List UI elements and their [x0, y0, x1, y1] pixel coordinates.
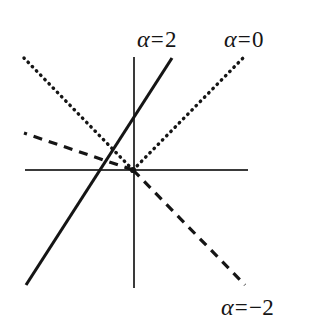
line-alpha-neg2-dashed-lower-right [133, 170, 245, 285]
line-alpha-2-solid [26, 58, 172, 285]
origin-point [130, 167, 136, 173]
line-alpha-0-dotted-upper-right [133, 58, 243, 170]
alpha-value: 2 [165, 27, 177, 52]
line-alpha-0-dotted-upper-left [24, 58, 133, 170]
label-alpha-neg2: α=−2 [221, 296, 274, 319]
equals-sign: = [150, 27, 165, 52]
label-alpha-0: α=0 [224, 28, 264, 51]
alpha-symbol: α [137, 26, 150, 52]
alpha-value: −2 [249, 295, 274, 320]
equals-sign: = [237, 27, 252, 52]
alpha-value: 0 [252, 27, 264, 52]
alpha-symbol: α [224, 26, 237, 52]
label-alpha-2: α=2 [137, 28, 177, 51]
alpha-symbol: α [221, 294, 234, 320]
alpha-family-figure: α=2 α=0 α=−2 [0, 0, 323, 335]
equals-sign: = [234, 295, 249, 320]
